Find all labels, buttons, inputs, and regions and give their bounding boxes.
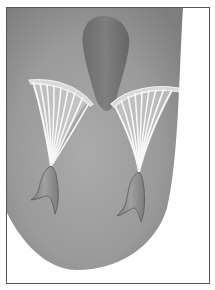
figure-frame	[6, 7, 210, 284]
mitral-valve-illustration	[7, 8, 210, 284]
